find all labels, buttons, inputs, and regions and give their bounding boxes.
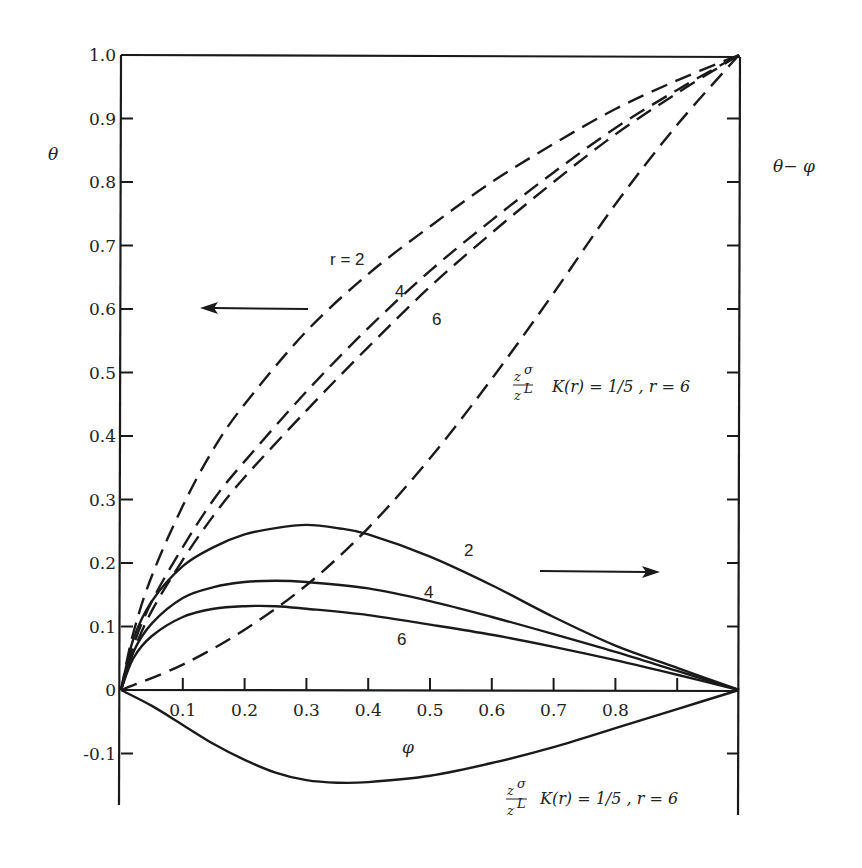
y-tick-label: 0.7 — [89, 236, 116, 256]
x-tick-label: 0.5 — [416, 700, 443, 720]
svg-text:K(r) = 1/5 , r = 6: K(r) = 1/5 , r = 6 — [539, 789, 678, 808]
y-tick-label: 1.0 — [89, 45, 116, 65]
y-ticks-left: -0.100.10.20.30.40.50.60.70.80.91.0 — [83, 45, 133, 764]
x-tick-label: 0.1 — [169, 700, 196, 720]
left-arrow-icon — [200, 302, 308, 314]
y-right-axis-label: θ− φ — [773, 156, 815, 176]
y-tick-label: 0 — [105, 680, 116, 700]
y-tick-label: 0.2 — [89, 553, 116, 573]
y-tick-label: 0.6 — [89, 299, 116, 319]
left-axis — [119, 55, 121, 805]
label-dashed-r2: r = 2 — [330, 250, 365, 269]
y-tick-label: 0.1 — [89, 617, 116, 637]
series-6-solid-line — [121, 606, 739, 690]
right-arrow-icon — [540, 566, 660, 578]
label-solid-6: 6 — [397, 630, 406, 649]
label-dashed-r4: 4 — [395, 282, 404, 301]
y-tick-label: 0.4 — [89, 426, 116, 446]
y-ticks-right — [727, 119, 739, 754]
svg-text:K(r) = 1/5 , r = 6: K(r) = 1/5 , r = 6 — [551, 377, 690, 396]
svg-text:z: z — [513, 388, 521, 403]
x-axis — [121, 690, 739, 691]
svg-text:σ: σ — [524, 362, 534, 377]
x-tick-label: 0.2 — [231, 700, 258, 720]
chart: -0.100.10.20.30.40.50.60.70.80.91.0 0.10… — [0, 0, 862, 868]
curves — [121, 55, 739, 783]
x-tick-label: 0.7 — [540, 700, 567, 720]
x-tick-label: 0.8 — [602, 700, 629, 720]
annotation-k-lower: z σ z L K(r) = 1/5 , r = 6 — [506, 776, 678, 818]
label-solid-2: 2 — [464, 541, 473, 560]
y-tick-label: 0.8 — [89, 172, 116, 192]
svg-text:L: L — [523, 381, 533, 396]
x-tick-label: 0.3 — [293, 700, 320, 720]
y-tick-label: 0.5 — [89, 363, 116, 383]
top-border — [121, 55, 740, 57]
x-axis-label: φ — [402, 737, 414, 757]
svg-text:z: z — [506, 803, 514, 818]
label-dashed-r6: 6 — [432, 310, 441, 329]
x-tick-label: 0.4 — [355, 700, 382, 720]
y-tick-label: 0.9 — [89, 109, 116, 129]
y-tick-label: 0.3 — [89, 490, 116, 510]
label-solid-4: 4 — [424, 583, 433, 602]
annotation-k-upper: z σ z L K(r) = 1/5 , r = 6 — [513, 362, 690, 403]
svg-text:z: z — [506, 783, 514, 798]
svg-text:σ: σ — [517, 776, 527, 791]
series-4-solid-line — [121, 525, 739, 690]
x-tick-label: 0.6 — [478, 700, 505, 720]
y-tick-label: -0.1 — [83, 744, 116, 764]
svg-text:z: z — [513, 369, 521, 384]
svg-text:L: L — [516, 796, 526, 811]
x-ticks: 0.10.20.30.40.50.60.70.8 — [169, 678, 677, 720]
y-left-axis-label: θ — [48, 144, 58, 164]
